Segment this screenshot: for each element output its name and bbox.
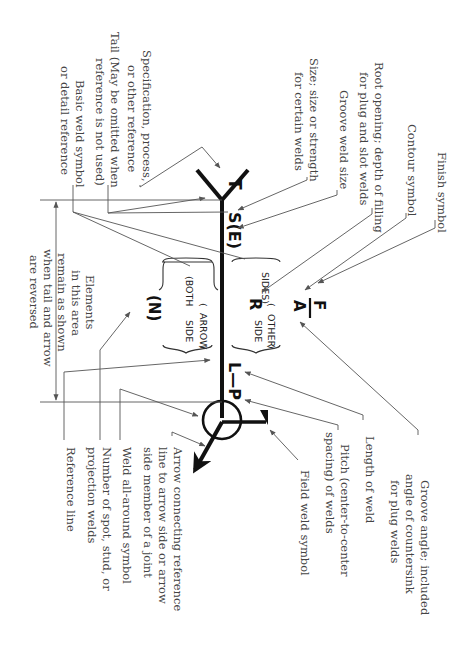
label-field-weld: Field weld symbol bbox=[298, 470, 312, 576]
other-side-text-1: OTHER bbox=[266, 314, 277, 347]
label-tail: Tail (May be omitted when reference is n… bbox=[93, 32, 122, 191]
label-pitch: Pitch (center-to-center spacing) of weld… bbox=[323, 432, 352, 580]
label-basic-weld-symbol: Basic weld symbol or detail reference bbox=[58, 66, 87, 191]
label-reference-line: Reference line bbox=[64, 447, 78, 532]
tail-text-t: T bbox=[225, 178, 245, 190]
symbol-texts: T S(E) R F A L—P (N) (BOTH SIDES) ARROW … bbox=[145, 178, 328, 400]
both-text: (BOTH bbox=[184, 276, 195, 306]
finish-symbol-f: F bbox=[310, 300, 328, 310]
labels: Finish symbol Contour symbol Root openin… bbox=[27, 32, 449, 619]
label-weld-all-around: Weld all-around symbol bbox=[120, 447, 134, 584]
label-arrow-connecting: Arrow connecting reference line to arrow… bbox=[141, 446, 185, 615]
label-root-opening: Root opening; depth of filling for plug … bbox=[357, 62, 386, 236]
sides-text: SIDES) bbox=[260, 272, 271, 304]
label-length-of-weld: Length of weld bbox=[363, 436, 377, 524]
paren: ( bbox=[266, 303, 277, 307]
arrow-line bbox=[195, 422, 222, 470]
label-elements-area: Elements in this area remain as shown wh… bbox=[27, 249, 97, 370]
length-pitch-text: L—P bbox=[225, 362, 244, 400]
tail-left-arm bbox=[197, 170, 222, 200]
welding-symbol-diagram: T S(E) R F A L—P (N) (BOTH SIDES) ARROW … bbox=[0, 0, 463, 646]
size-text-se: S(E) bbox=[225, 212, 244, 249]
paren: ( bbox=[198, 303, 209, 307]
label-number-of-spot: Number of spot, stud, or projection weld… bbox=[85, 447, 114, 594]
angle-symbol-a: A bbox=[290, 300, 308, 312]
label-specification: Specification, process, or other referen… bbox=[125, 50, 154, 185]
arrow-side-text-2: SIDE bbox=[184, 320, 195, 342]
label-finish-symbol: Finish symbol bbox=[435, 152, 449, 233]
label-groove-angle: Groove angle; included angle of counters… bbox=[388, 474, 432, 619]
other-side-text-2: SIDE bbox=[253, 320, 264, 342]
number-text-n: (N) bbox=[145, 295, 163, 321]
label-groove-weld-size: Groove weld size bbox=[337, 90, 351, 189]
label-size: Size; size or strength for certain welds bbox=[292, 58, 321, 185]
label-contour-symbol: Contour symbol bbox=[405, 124, 419, 217]
